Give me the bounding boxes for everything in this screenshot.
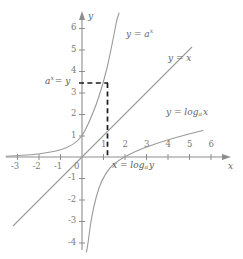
y-tick-label--4: -4 <box>68 238 76 247</box>
x-tick-label-1: 1 <box>101 140 106 149</box>
logarithm-label-base: a <box>198 110 202 117</box>
y-tick-label-4: 4 <box>71 66 76 75</box>
x-axis-name: x <box>228 162 233 171</box>
graph-canvas <box>0 0 243 259</box>
logarithm-value-annotation: x = loga y <box>112 161 154 170</box>
identity-line <box>13 47 192 226</box>
y-tick-label--3: -3 <box>68 216 76 225</box>
logarithm-label-arg: x <box>203 107 208 117</box>
annotation-equals-y: = y <box>55 76 71 86</box>
y-tick-label-1: 1 <box>71 131 76 140</box>
annotation-log-base: a <box>144 163 148 170</box>
exponential-value-annotation: ax = y <box>45 77 70 86</box>
exponential-label-exponent: x <box>150 27 154 34</box>
y-tick-label-5: 5 <box>71 45 76 54</box>
y-tick-label-2: 2 <box>71 109 76 118</box>
y-tick-label-6: 6 <box>71 23 76 32</box>
origin-label: 0 <box>74 162 79 171</box>
annotation-log-lead: x = log <box>112 160 144 170</box>
logarithm-curve-label: y = loga x <box>166 108 208 117</box>
logarithm-exponential-graph: -3 -2 -1 1 2 3 4 5 6 6 5 4 3 2 1 -1 -2 -… <box>0 0 243 259</box>
x-tick-label--1: -1 <box>54 162 62 171</box>
y-tick-label--2: -2 <box>68 195 76 204</box>
exponential-label-text: y = a <box>126 29 150 39</box>
y-tick-label--1: -1 <box>68 173 76 182</box>
annotation-log-arg: y <box>149 160 154 170</box>
x-tick-label-4: 4 <box>166 140 171 149</box>
x-tick-label--3: -3 <box>11 162 19 171</box>
logarithm-label-text: y = log <box>166 107 198 117</box>
annotation-exponent: x <box>50 74 54 81</box>
identity-curve-label: y = x <box>168 54 191 63</box>
x-tick-label-5: 5 <box>187 140 192 149</box>
x-tick-label-2: 2 <box>123 140 128 149</box>
x-tick-label--2: -2 <box>33 162 41 171</box>
x-tick-label-6: 6 <box>209 140 214 149</box>
y-axis-name: y <box>88 12 93 21</box>
exponential-curve-label: y = ax <box>126 30 153 39</box>
y-tick-label-3: 3 <box>71 88 76 97</box>
x-tick-label-3: 3 <box>144 140 149 149</box>
